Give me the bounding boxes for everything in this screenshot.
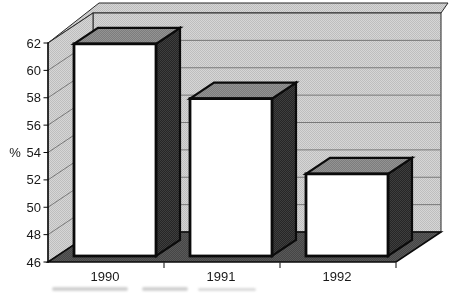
x-category-label: 1992	[323, 269, 352, 284]
y-tick-label: 52	[27, 172, 41, 187]
y-tick-label: 56	[27, 118, 41, 133]
scan-artifact	[198, 288, 256, 291]
bar-side-face	[156, 28, 180, 256]
scan-artifact	[52, 287, 128, 291]
x-category-label: 1991	[207, 269, 236, 284]
bar-side-face	[272, 83, 296, 256]
x-category-labels: 199019911992	[91, 269, 352, 284]
y-axis-title: %	[9, 145, 21, 160]
y-tick-label: 48	[27, 227, 41, 242]
bar-front-face	[74, 44, 156, 256]
bar-chart-3d: 464850525456586062%199019911992	[0, 0, 451, 294]
bar-1992	[306, 158, 412, 256]
scan-artifact	[142, 287, 188, 291]
y-tick-labels: 464850525456586062	[27, 36, 41, 270]
bar-front-face	[306, 174, 388, 256]
scanned-chart-page: 464850525456586062%199019911992	[0, 0, 451, 294]
bar-1991	[190, 83, 296, 256]
y-tick-label: 60	[27, 63, 41, 78]
bar-front-face	[190, 99, 272, 256]
y-tick-label: 62	[27, 36, 41, 51]
bar-1990	[74, 28, 180, 256]
y-tick-label: 46	[27, 255, 41, 270]
x-category-label: 1990	[91, 269, 120, 284]
x-axis-ticks	[164, 263, 396, 269]
y-tick-label: 54	[27, 145, 41, 160]
y-tick-label: 50	[27, 200, 41, 215]
y-tick-label: 58	[27, 90, 41, 105]
